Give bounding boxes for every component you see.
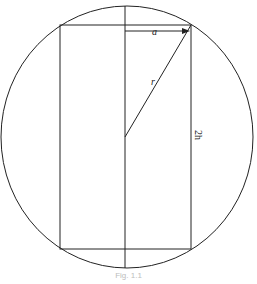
label-r: r: [151, 76, 155, 87]
figure-caption: Fig. 1.1: [0, 271, 257, 280]
radius-line: [125, 25, 191, 137]
cylinder-in-sphere-diagram: a r 2h: [0, 0, 257, 284]
label-2h: 2h: [193, 130, 204, 140]
label-a: a: [152, 26, 157, 37]
sphere-outline: [1, 6, 253, 268]
